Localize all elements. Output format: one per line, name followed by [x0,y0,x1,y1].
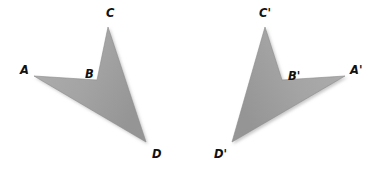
vertex-label-d-prime: D' [214,147,227,161]
vertex-label-d: D [152,147,162,161]
vertex-label-b: B [85,67,94,81]
reflection-diagram: A B C D A' B' C' D' [0,0,370,172]
vertex-label-c-prime: C' [259,6,271,20]
vertex-label-a: A [19,63,29,77]
vertex-label-a-prime: A' [349,63,362,77]
figure-canvas: A B C D A' B' C' D' [0,0,370,172]
vertex-label-c: C [106,6,115,20]
vertex-label-b-prime: B' [288,69,300,83]
